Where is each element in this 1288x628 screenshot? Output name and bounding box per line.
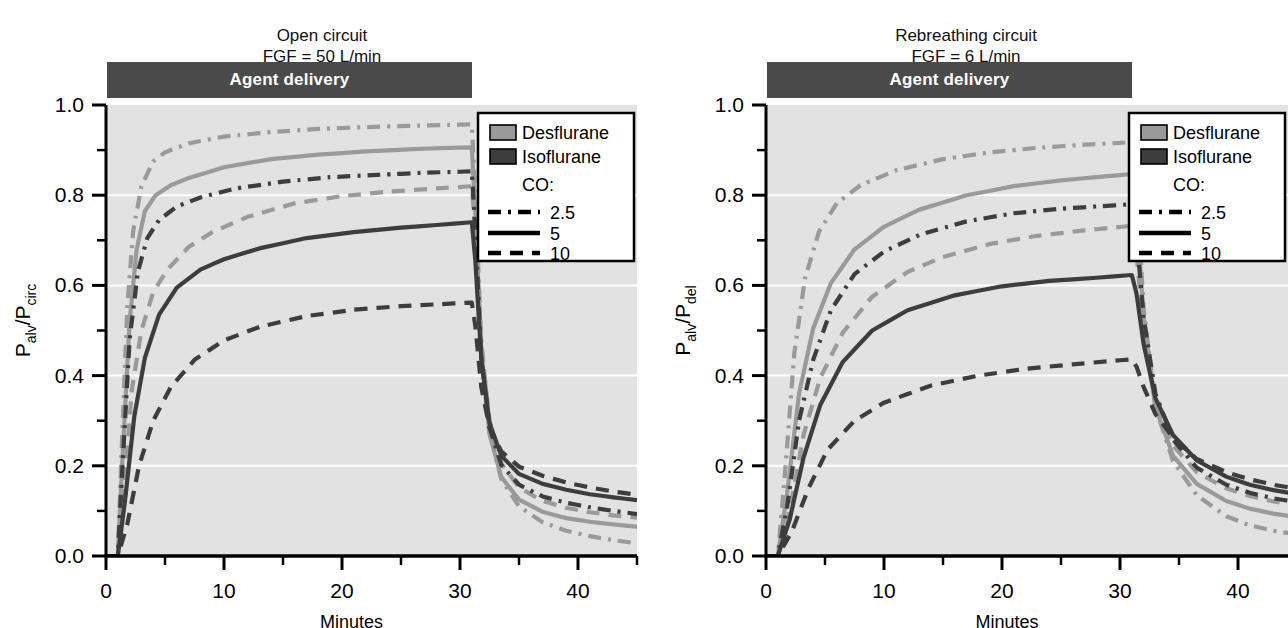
x-tick-label: 0 — [760, 579, 772, 602]
legend-swatch-desflurane — [1141, 125, 1167, 140]
legend-co-label: CO: — [522, 175, 554, 195]
legend-label: Isoflurane — [1173, 147, 1252, 167]
y-tick-label: 1.0 — [55, 93, 84, 116]
legend-co-value: 2.5 — [1201, 203, 1226, 223]
legend: DesfluraneIsofluraneCO:2.5510 — [1129, 113, 1285, 264]
legend-label: Isoflurane — [522, 147, 601, 167]
x-tick-label: 20 — [990, 579, 1013, 602]
svg-text:Palv/Pdel: Palv/Pdel — [671, 285, 699, 355]
y-tick-label: 0.2 — [55, 454, 84, 477]
legend-co-value: 2.5 — [550, 203, 575, 223]
legend-co-value: 10 — [1201, 244, 1221, 264]
legend-co-value: 5 — [1201, 224, 1211, 244]
x-tick-label: 30 — [448, 579, 471, 602]
y-tick-label: 0.2 — [715, 454, 744, 477]
y-tick-label: 1.0 — [715, 93, 744, 116]
y-tick-label: 0.6 — [55, 273, 84, 296]
x-tick-label: 40 — [566, 579, 589, 602]
x-tick-label: 40 — [1226, 579, 1249, 602]
legend-swatch-isoflurane — [490, 149, 516, 164]
x-tick-label: 10 — [212, 579, 235, 602]
y-tick-label: 0.8 — [715, 183, 744, 206]
legend-label: Desflurane — [1173, 123, 1260, 143]
legend-swatch-isoflurane — [1141, 149, 1167, 164]
x-axis-title: Minutes — [320, 612, 383, 628]
y-tick-label: 0.0 — [715, 544, 744, 567]
y-axis-title: Palv/Pcirc — [11, 284, 39, 358]
x-tick-label: 20 — [330, 579, 353, 602]
legend-co-value: 5 — [550, 224, 560, 244]
y-tick-label: 0.4 — [715, 364, 745, 387]
y-axis-title: Palv/Pdel — [671, 285, 699, 355]
legend-swatch-desflurane — [490, 125, 516, 140]
legend-label: Desflurane — [522, 123, 609, 143]
svg-text:Palv/Pcirc: Palv/Pcirc — [11, 284, 39, 358]
x-tick-label: 30 — [1108, 579, 1131, 602]
panel-rebreathing-circuit: Rebreathing circuit FGF = 6 L/min Agent … — [644, 0, 1288, 628]
legend-co-value: 10 — [550, 244, 570, 264]
x-axis-title: Minutes — [975, 612, 1038, 628]
y-tick-label: 0.6 — [715, 273, 744, 296]
chart-canvas-rebreathing-circuit: 0.00.20.40.60.81.0010203040MinutesPalv/P… — [644, 0, 1288, 628]
figure-two-panel-chart: Open circuit FGF = 50 L/min Agent delive… — [0, 0, 1288, 628]
x-tick-label: 0 — [100, 579, 112, 602]
y-tick-label: 0.4 — [55, 364, 85, 387]
x-tick-label: 10 — [872, 579, 895, 602]
panel-open-circuit: Open circuit FGF = 50 L/min Agent delive… — [0, 0, 644, 628]
y-tick-label: 0.0 — [55, 544, 84, 567]
y-tick-label: 0.8 — [55, 183, 84, 206]
chart-canvas-open-circuit: 0.00.20.40.60.81.0010203040MinutesPalv/P… — [0, 0, 644, 628]
legend-co-label: CO: — [1173, 175, 1205, 195]
legend: DesfluraneIsofluraneCO:2.5510 — [478, 113, 634, 264]
